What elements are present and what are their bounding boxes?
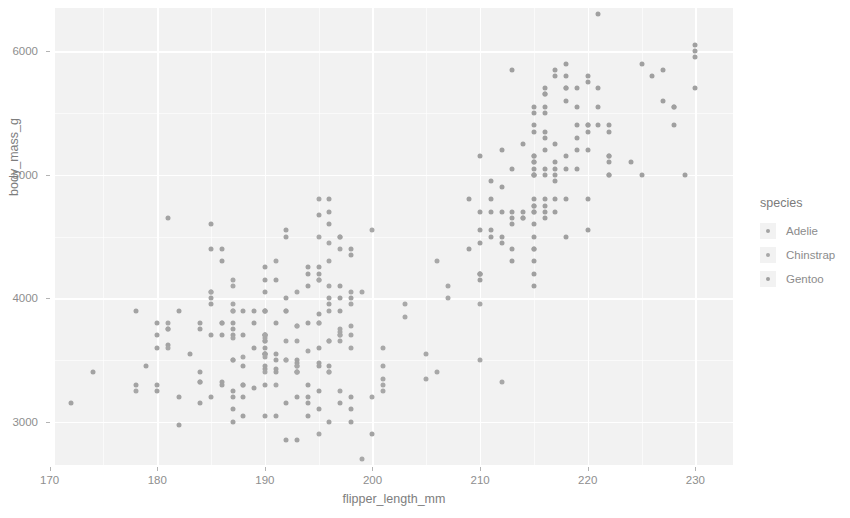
y-tick-label: 6000 [0, 45, 38, 57]
scatter-point [574, 123, 579, 128]
scatter-point [553, 166, 558, 171]
scatter-point [230, 283, 235, 288]
scatter-point [262, 364, 267, 369]
scatter-point [230, 395, 235, 400]
scatter-point [327, 302, 332, 307]
scatter-point [262, 354, 267, 359]
scatter-point [155, 320, 160, 325]
scatter-point [488, 197, 493, 202]
scatter-point [305, 395, 310, 400]
scatter-point [338, 339, 343, 344]
scatter-point [252, 385, 257, 390]
scatter-point [510, 67, 515, 72]
scatter-point [564, 234, 569, 239]
scatter-point [327, 209, 332, 214]
scatter-point [542, 129, 547, 134]
scatter-point [338, 327, 343, 332]
scatter-point [542, 166, 547, 171]
scatter-point [209, 290, 214, 295]
scatter-point [531, 197, 536, 202]
scatter-point [338, 234, 343, 239]
scatter-point [585, 80, 590, 85]
scatter-point [488, 178, 493, 183]
scatter-point [252, 345, 257, 350]
y-tick-mark [46, 175, 50, 176]
legend: species AdelieChinstrapGentoo [760, 196, 846, 291]
scatter-point [273, 413, 278, 418]
gridline-minor-vertical [103, 8, 104, 465]
x-axis-label: flipper_length_mm [55, 492, 733, 506]
scatter-point [284, 339, 289, 344]
scatter-point [230, 358, 235, 363]
scatter-point [596, 123, 601, 128]
scatter-point [585, 73, 590, 78]
scatter-point [531, 166, 536, 171]
scatter-point [284, 234, 289, 239]
scatter-point [295, 290, 300, 295]
x-tick-mark [695, 467, 696, 471]
scatter-point [607, 172, 612, 177]
scatter-point [553, 209, 558, 214]
scatter-point [585, 228, 590, 233]
scatter-point [435, 259, 440, 264]
scatter-point [628, 160, 633, 165]
scatter-point [424, 376, 429, 381]
scatter-point [381, 388, 386, 393]
scatter-point [305, 320, 310, 325]
legend-item[interactable]: Gentoo [760, 267, 846, 291]
legend-item[interactable]: Adelie [760, 219, 846, 243]
legend-key-swatch [760, 247, 776, 263]
scatter-point [402, 314, 407, 319]
chart-canvas: 3000400050006000 170180190200210220230 f… [0, 0, 850, 518]
scatter-point [338, 388, 343, 393]
scatter-point [284, 308, 289, 313]
scatter-point [693, 49, 698, 54]
scatter-point [564, 86, 569, 91]
scatter-point [564, 154, 569, 159]
scatter-point [327, 259, 332, 264]
scatter-point [542, 209, 547, 214]
scatter-point [262, 345, 267, 350]
scatter-point [90, 370, 95, 375]
scatter-point [219, 246, 224, 251]
scatter-point [219, 333, 224, 338]
scatter-point [144, 364, 149, 369]
scatter-point [166, 320, 171, 325]
scatter-point [488, 209, 493, 214]
scatter-point [133, 308, 138, 313]
scatter-point [564, 197, 569, 202]
scatter-point [316, 361, 321, 366]
scatter-point [499, 185, 504, 190]
scatter-point [467, 197, 472, 202]
scatter-point [305, 413, 310, 418]
scatter-point [531, 172, 536, 177]
scatter-point [478, 154, 483, 159]
scatter-point [348, 395, 353, 400]
legend-item[interactable]: Chinstrap [760, 243, 846, 267]
scatter-point [209, 222, 214, 227]
scatter-point [166, 327, 171, 332]
x-tick-mark [157, 467, 158, 471]
x-tick-mark [480, 467, 481, 471]
scatter-point [262, 370, 267, 375]
scatter-point [553, 67, 558, 72]
scatter-point [607, 160, 612, 165]
scatter-point [316, 265, 321, 270]
scatter-point [284, 401, 289, 406]
scatter-point [574, 86, 579, 91]
scatter-point [209, 296, 214, 301]
scatter-point [607, 123, 612, 128]
scatter-point [542, 86, 547, 91]
scatter-point [166, 345, 171, 350]
scatter-point [542, 197, 547, 202]
scatter-point [241, 413, 246, 418]
gridline-minor-vertical [426, 8, 427, 465]
scatter-point [262, 290, 267, 295]
scatter-point [564, 73, 569, 78]
scatter-point [574, 104, 579, 109]
scatter-point [542, 148, 547, 153]
scatter-point [241, 395, 246, 400]
scatter-point [521, 215, 526, 220]
scatter-point [370, 395, 375, 400]
scatter-point [661, 67, 666, 72]
